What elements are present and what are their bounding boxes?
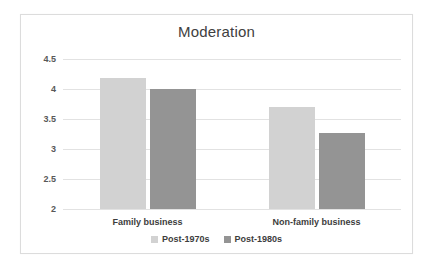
chart-container: Moderation 4.543.532.52Family businessNo… (20, 14, 413, 254)
bar-post-1970s-family-business (100, 78, 146, 209)
legend-swatch-icon (224, 236, 231, 243)
y-axis-tick-label: 4 (51, 84, 56, 94)
legend-item[interactable]: Post-1970s (151, 234, 210, 244)
y-axis-tick-label: 2.5 (43, 174, 56, 184)
category-label: Non-family business (272, 217, 360, 227)
bar-post-1980s-non-family-business (319, 133, 365, 209)
y-axis-tick-label: 3.5 (43, 114, 56, 124)
plot-area: 4.543.532.52Family businessNon-family bu… (63, 59, 401, 209)
category-label: Family business (112, 217, 182, 227)
legend-label: Post-1980s (235, 234, 283, 244)
gridline: 2 (63, 209, 401, 210)
bar-post-1980s-family-business (150, 89, 196, 209)
y-axis-tick-label: 3 (51, 144, 56, 154)
legend-item[interactable]: Post-1980s (224, 234, 283, 244)
bar-post-1970s-non-family-business (269, 107, 315, 209)
y-axis-tick-label: 4.5 (43, 54, 56, 64)
chart-title: Moderation (21, 23, 412, 40)
legend-label: Post-1970s (162, 234, 210, 244)
y-axis-tick-label: 2 (51, 204, 56, 214)
gridline: 4.5 (63, 59, 401, 60)
chart-legend: Post-1970sPost-1980s (21, 234, 412, 244)
legend-swatch-icon (151, 236, 158, 243)
